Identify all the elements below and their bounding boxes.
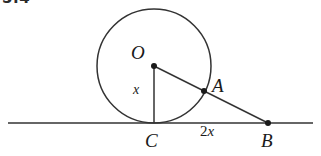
segment-length-variable: x <box>208 123 215 139</box>
radius-length-label: x <box>133 83 139 97</box>
segment-length-label: 2x <box>200 124 214 139</box>
point-marker-O <box>151 63 157 69</box>
point-marker-B <box>265 120 271 126</box>
point-label-A: A <box>212 76 224 95</box>
point-label-C: C <box>145 131 158 150</box>
segment-length-coefficient: 2 <box>200 123 208 139</box>
point-marker-A <box>201 88 207 94</box>
point-label-O: O <box>131 43 145 62</box>
geometry-figure: 5.4 O A B C x 2x <box>0 0 321 156</box>
point-label-B: B <box>261 131 273 150</box>
